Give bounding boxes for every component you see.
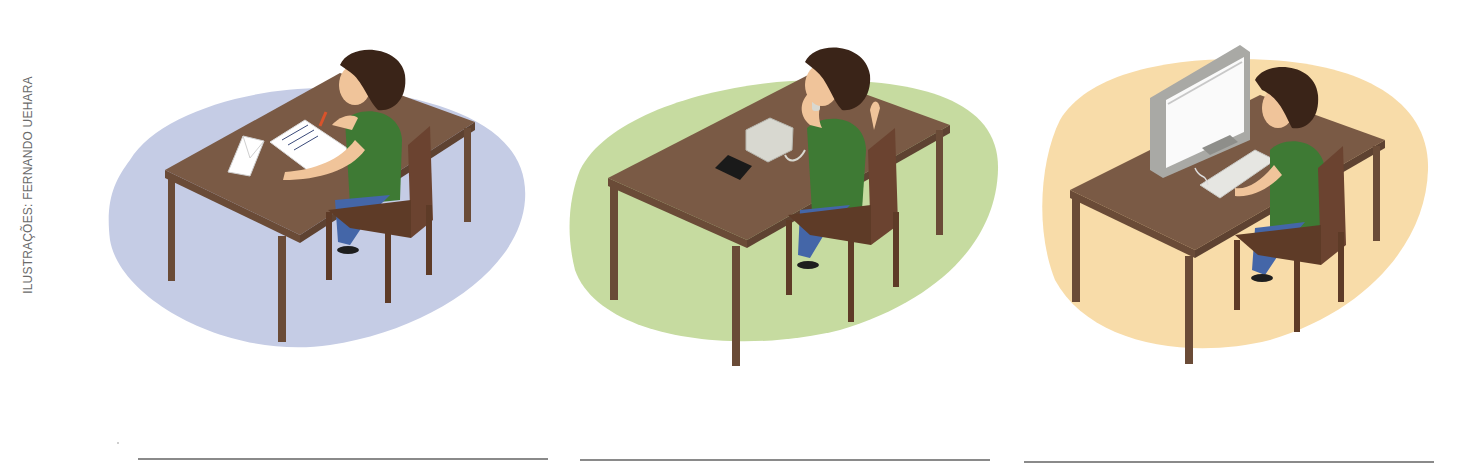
scene-computer <box>1030 0 1450 380</box>
scene-phone <box>560 0 1010 380</box>
answer-line-3[interactable] <box>1024 461 1434 463</box>
answer-line-1[interactable] <box>138 458 548 460</box>
answer-line-2[interactable] <box>580 459 990 461</box>
scene-letter <box>100 0 540 370</box>
illustration-credit: ILUSTRAÇÕES: FERNANDO UEHARA <box>21 55 35 315</box>
stray-dot <box>117 442 119 444</box>
